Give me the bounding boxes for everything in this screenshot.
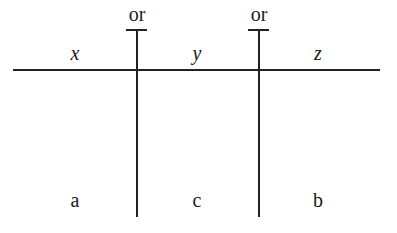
divider-line-1 xyxy=(136,29,138,217)
variable-x: x xyxy=(71,43,80,63)
variable-y: y xyxy=(193,43,202,63)
value-a: a xyxy=(71,190,80,210)
or-label-1: or xyxy=(129,4,146,24)
variable-z: z xyxy=(314,43,322,63)
horizontal-rule xyxy=(13,69,380,71)
divider-line-2 xyxy=(258,29,260,217)
value-b: b xyxy=(313,190,323,210)
or-label-2: or xyxy=(251,4,268,24)
value-c: c xyxy=(193,190,202,210)
